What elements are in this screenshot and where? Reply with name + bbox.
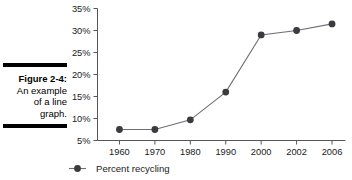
- legend-marker-dot: [74, 165, 81, 172]
- data-point-marker[interactable]: [258, 32, 265, 39]
- x-axis-tick-label: 1960: [109, 147, 130, 157]
- x-axis-tick-label: 1980: [180, 147, 201, 157]
- line-chart: 5%10%15%20%25%30%35% 1960197019801990200…: [68, 0, 352, 180]
- data-point-marker[interactable]: [222, 89, 229, 96]
- data-point-marker[interactable]: [187, 116, 194, 123]
- data-point-marker[interactable]: [329, 21, 336, 28]
- caption-line-1: An example: [3, 85, 67, 97]
- x-axis: 1960197019801990200020022006: [98, 141, 346, 158]
- y-axis-tick-label: 25%: [72, 48, 91, 58]
- data-point-marker[interactable]: [293, 27, 300, 34]
- caption-rule-bottom: [3, 124, 67, 128]
- series-polyline: [119, 24, 332, 130]
- x-axis-tick-label: 2000: [251, 147, 272, 157]
- figure-caption-block: Figure 2-4: An example of a line graph.: [3, 63, 67, 128]
- y-axis-tick-label: 30%: [72, 26, 91, 36]
- x-axis-tick-label: 2006: [322, 147, 343, 157]
- caption-line-3: graph.: [3, 108, 67, 120]
- y-axis-tick-label: 5%: [77, 136, 90, 146]
- figure-container: Figure 2-4: An example of a line graph. …: [0, 0, 352, 180]
- legend-label: Percent recycling: [96, 163, 170, 174]
- y-axis-tick-label: 35%: [72, 4, 91, 14]
- caption-text: Figure 2-4: An example of a line graph.: [3, 67, 67, 124]
- data-series-percent-recycling: [116, 21, 335, 133]
- y-axis: 5%10%15%20%25%30%35%: [72, 4, 98, 146]
- data-point-marker[interactable]: [116, 126, 123, 133]
- x-axis-tick-label: 2002: [286, 147, 307, 157]
- x-axis-tick-label: 1990: [215, 147, 236, 157]
- y-axis-tick-label: 20%: [72, 70, 91, 80]
- y-axis-tick-label: 10%: [72, 114, 91, 124]
- chart-legend: Percent recycling: [69, 163, 170, 174]
- data-point-marker[interactable]: [151, 126, 158, 133]
- x-axis-tick-label: 1970: [145, 147, 166, 157]
- y-axis-tick-label: 15%: [72, 92, 91, 102]
- caption-line-2: of a line: [3, 96, 67, 108]
- caption-label: Figure 2-4:: [3, 73, 67, 85]
- chart-svg: 5%10%15%20%25%30%35% 1960197019801990200…: [68, 0, 352, 180]
